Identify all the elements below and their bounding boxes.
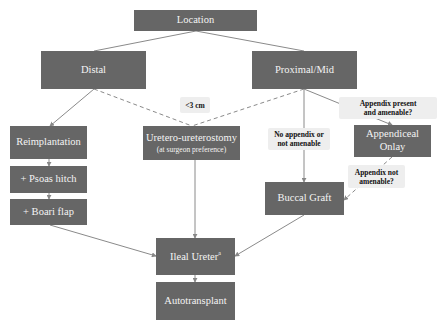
- ileal-ureter-footnote: a: [218, 250, 221, 256]
- edge-label-no-appendix: No appendix or not amenable: [268, 128, 330, 150]
- node-psoas-hitch-label: + Psoas hitch: [20, 173, 76, 186]
- edge-label-lt3cm: <3 cm: [180, 97, 210, 113]
- node-autotransplant: Autotransplant: [156, 282, 235, 320]
- node-distal: Distal: [41, 51, 146, 89]
- node-boari-flap: + Boari flap: [10, 199, 87, 225]
- node-uretero-label: Uretero-ureterostomy: [146, 132, 237, 145]
- ileal-ureter-text: Ileal Ureter: [170, 250, 218, 261]
- no-appendix-line2: not amenable: [277, 139, 320, 148]
- appendix-not-amenable-line1: Appendix not: [355, 168, 399, 177]
- edge-label-lt3cm-text: <3 cm: [185, 101, 204, 110]
- edge-label-appendix-present: Appendix present and amenable?: [339, 97, 437, 119]
- node-appendiceal-line2: Onlay: [380, 141, 406, 154]
- edge-label-appendix-not-amenable: Appendix not amenable?: [348, 165, 405, 188]
- appendix-present-line2: and amenable?: [364, 108, 413, 117]
- node-ileal-ureter-label: Ileal Uretera: [170, 250, 221, 263]
- appendix-not-amenable-line2: amenable?: [359, 177, 394, 186]
- node-autotransplant-label: Autotransplant: [164, 295, 226, 308]
- node-appendiceal-line1: Appendiceal: [366, 128, 419, 141]
- node-proximal-mid-label: Proximal/Mid: [275, 64, 334, 77]
- edge-location-proximal: [196, 31, 304, 51]
- edge-location-distal: [94, 31, 196, 51]
- node-ileal-ureter: Ileal Uretera: [156, 238, 235, 275]
- node-uretero-sublabel: (at surgeon preference): [157, 145, 226, 154]
- node-reimplantation: Reimplantation: [10, 126, 87, 159]
- node-boari-flap-label: + Boari flap: [23, 206, 74, 219]
- node-distal-label: Distal: [81, 64, 106, 77]
- edges-layer: [0, 0, 440, 328]
- node-location: Location: [134, 10, 257, 31]
- node-buccal-graft-label: Buccal Graft: [278, 192, 332, 205]
- node-uretero-ureterostomy: Uretero-ureterostomy (at surgeon prefere…: [143, 126, 240, 160]
- edge-distal-reimplantation: [50, 89, 94, 126]
- edge-distal-uretero: [94, 89, 192, 126]
- node-appendiceal-onlay: Appendiceal Onlay: [354, 125, 431, 157]
- node-psoas-hitch: + Psoas hitch: [10, 166, 87, 193]
- node-proximal-mid: Proximal/Mid: [252, 51, 357, 89]
- node-location-label: Location: [177, 14, 214, 27]
- edge-boari-ileal: [50, 225, 156, 256]
- appendix-present-line1: Appendix present: [360, 99, 417, 108]
- node-reimplantation-label: Reimplantation: [16, 136, 81, 149]
- edge-buccal-ileal: [235, 215, 304, 256]
- no-appendix-line1: No appendix or: [274, 130, 324, 139]
- node-buccal-graft: Buccal Graft: [265, 182, 344, 215]
